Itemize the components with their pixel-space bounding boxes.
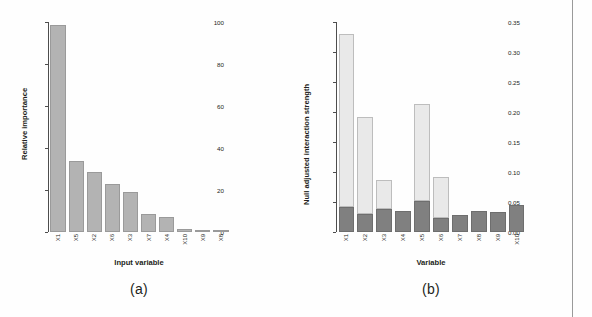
bar-X7 (452, 215, 468, 232)
x-tick-label-X6: X6 (438, 234, 444, 260)
y-tick (45, 190, 48, 191)
bar-segment-null-baseline (471, 211, 487, 232)
bar-X5 (414, 104, 430, 232)
bar-segment-null-baseline (395, 211, 411, 232)
bar-segment-null-baseline (414, 201, 430, 232)
x-tick-label-X1: X1 (343, 234, 349, 260)
x-tick-label-X10: X10 (182, 234, 188, 260)
bar-X7 (141, 214, 156, 232)
bar-segment-null-baseline (509, 205, 525, 232)
y-tick (45, 106, 48, 107)
plot-area-b: 0.000.050.100.150.200.250.300.35 X1X2X3X… (336, 22, 526, 232)
bar-X10 (177, 229, 192, 232)
x-axis-label-a: Input variable (48, 258, 230, 267)
x-tick-label-X3: X3 (127, 234, 133, 260)
bar-X8 (213, 231, 228, 232)
y-tick (333, 22, 336, 23)
panel-caption-a: (a) (109, 281, 169, 297)
bar-X9 (195, 230, 210, 232)
bar-X9 (490, 212, 506, 232)
x-tick-label-X4: X4 (164, 234, 170, 260)
panel-a: 020406080100 X1X5X2X6X3X7X4X10X9X8 Relat… (0, 0, 296, 317)
bar-segment-adjusted-interaction (433, 177, 449, 218)
bar-fill (195, 230, 210, 232)
bar-X6 (105, 184, 120, 232)
bar-X10 (509, 205, 525, 232)
panel-caption-b: (b) (401, 281, 461, 297)
x-axis-label-b: Variable (336, 258, 526, 267)
panel-b: 0.000.050.100.150.200.250.300.35 X1X2X3X… (288, 0, 584, 317)
bar-fill (105, 184, 120, 232)
bar-group-b (337, 22, 526, 232)
y-axis-label-a: Relative importance (20, 88, 29, 160)
bar-fill (123, 192, 138, 232)
x-tick-label-X10: X10 (514, 234, 520, 260)
y-tick (333, 232, 336, 233)
x-tick-label-X6: X6 (109, 234, 115, 260)
y-tick (333, 202, 336, 203)
bar-segment-null-baseline (376, 209, 392, 232)
bar-segment-adjusted-interaction (414, 104, 430, 201)
bar-fill (69, 161, 84, 232)
bar-fill (87, 172, 102, 232)
bar-segment-adjusted-interaction (357, 117, 373, 214)
bar-X4 (395, 211, 411, 232)
y-tick (45, 64, 48, 65)
bar-fill (141, 214, 156, 232)
bar-X6 (433, 177, 449, 232)
x-tick-label-X7: X7 (457, 234, 463, 260)
y-tick (333, 112, 336, 113)
x-tick-label-X9: X9 (200, 234, 206, 260)
bar-segment-null-baseline (433, 218, 449, 232)
y-tick (333, 82, 336, 83)
y-axis-label-b: Null adjusted interaction strength (302, 84, 311, 205)
y-tick (333, 142, 336, 143)
y-tick (45, 232, 48, 233)
bar-X3 (123, 192, 138, 232)
bar-X8 (471, 211, 487, 232)
x-tick-label-X2: X2 (91, 234, 97, 260)
bar-X1 (339, 34, 355, 232)
bar-X2 (357, 117, 373, 232)
x-tick-label-X9: X9 (495, 234, 501, 260)
figure-container: 020406080100 X1X5X2X6X3X7X4X10X9X8 Relat… (0, 0, 592, 317)
x-tick-label-X4: X4 (400, 234, 406, 260)
y-tick (45, 148, 48, 149)
y-tick (45, 22, 48, 23)
bar-segment-adjusted-interaction (339, 34, 355, 207)
x-tick-label-X3: X3 (381, 234, 387, 260)
y-tick (333, 172, 336, 173)
bar-segment-null-baseline (339, 207, 355, 232)
bar-X2 (87, 172, 102, 232)
bar-fill (177, 229, 192, 232)
x-tick-label-X1: X1 (55, 234, 61, 260)
bar-segment-adjusted-interaction (376, 180, 392, 209)
bar-X1 (50, 25, 65, 232)
bar-fill (50, 25, 65, 232)
bar-segment-null-baseline (490, 212, 506, 232)
x-tick-label-X5: X5 (419, 234, 425, 260)
x-tick-label-X2: X2 (362, 234, 368, 260)
bar-X4 (159, 217, 174, 232)
y-tick (333, 52, 336, 53)
bar-segment-null-baseline (452, 215, 468, 232)
bar-X3 (376, 180, 392, 232)
bar-fill (213, 230, 228, 232)
x-tick-label-X7: X7 (146, 234, 152, 260)
figure-page: 020406080100 X1X5X2X6X3X7X4X10X9X8 Relat… (0, 0, 592, 317)
plot-area-a: 020406080100 X1X5X2X6X3X7X4X10X9X8 (48, 22, 230, 232)
bar-X5 (69, 161, 84, 232)
bar-group-a (49, 22, 230, 232)
x-tick-label-X8: X8 (218, 234, 224, 260)
x-tick-label-X8: X8 (476, 234, 482, 260)
bar-segment-null-baseline (357, 214, 373, 232)
bar-fill (159, 217, 174, 232)
x-tick-label-X5: X5 (73, 234, 79, 260)
